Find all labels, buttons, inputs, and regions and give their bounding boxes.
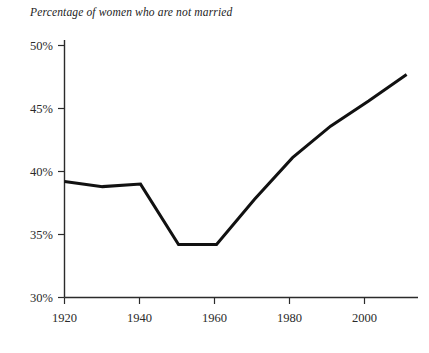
chart-container: Percentage of women who are not married … (0, 0, 429, 353)
x-tick-label-2000: 2000 (352, 311, 377, 325)
y-tick-label-30: 30% (30, 291, 53, 305)
y-tick-label-50: 50% (30, 39, 53, 53)
y-tick-label-35: 35% (30, 228, 53, 242)
line-chart-plot: 50% 45% 40% 35% 30% 1920 1940 1960 1980 … (0, 0, 429, 353)
x-tick-label-1920: 1920 (52, 311, 77, 325)
x-tick-label-1940: 1940 (127, 311, 152, 325)
x-tick-label-1980: 1980 (277, 311, 302, 325)
y-tick-label-40: 40% (30, 165, 53, 179)
x-tick-label-1960: 1960 (202, 311, 227, 325)
y-tick-label-45: 45% (30, 102, 53, 116)
data-series-line (65, 74, 407, 244)
